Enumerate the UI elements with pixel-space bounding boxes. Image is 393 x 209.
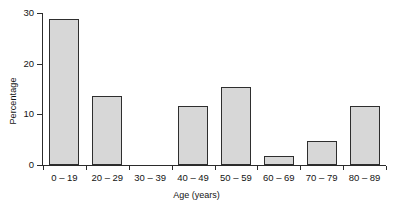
y-tick-mark [37, 13, 42, 14]
y-tick-label: 10 [14, 108, 34, 119]
bar-slot [172, 13, 215, 165]
bar-slot [343, 13, 386, 165]
x-tick-label: 0 – 19 [43, 172, 86, 183]
bar [307, 141, 337, 165]
bar [49, 19, 79, 165]
x-tick-mark [300, 166, 301, 170]
bar [264, 156, 294, 165]
bar [92, 96, 122, 165]
y-tick-label: 30 [14, 7, 34, 18]
x-tick-mark [343, 166, 344, 170]
bar [221, 87, 251, 165]
bar-slot [129, 13, 172, 165]
x-tick-label: 70 – 79 [300, 172, 343, 183]
y-tick-mark [37, 64, 42, 65]
x-tick-mark [43, 166, 44, 170]
x-tick-mark [386, 166, 387, 170]
bar-slot [257, 13, 300, 165]
bar-slot [43, 13, 86, 165]
plot-area [43, 13, 386, 165]
x-tick-label: 60 – 69 [257, 172, 300, 183]
y-axis-title: Percentage [8, 56, 18, 146]
x-tick-mark [172, 166, 173, 170]
x-tick-label: 20 – 29 [86, 172, 129, 183]
x-tick-label: 50 – 59 [215, 172, 258, 183]
x-tick-label: 80 – 89 [343, 172, 386, 183]
bar-slot [300, 13, 343, 165]
x-tick-mark [215, 166, 216, 170]
y-tick-label: 20 [14, 58, 34, 69]
x-tick-mark [257, 166, 258, 170]
y-tick-mark [37, 165, 42, 166]
x-tick-label: 30 – 39 [129, 172, 172, 183]
bar [178, 106, 208, 165]
bar-slot [86, 13, 129, 165]
x-tick-label: 40 – 49 [172, 172, 215, 183]
x-tick-mark [86, 166, 87, 170]
y-tick-mark [37, 114, 42, 115]
x-tick-mark [129, 166, 130, 170]
x-axis-title: Age (years) [0, 190, 393, 200]
bar-slot [215, 13, 258, 165]
bar-chart: Percentage 0102030 0 – 1920 – 2930 – 394… [0, 0, 393, 209]
bar [350, 106, 380, 165]
y-tick-label: 0 [14, 159, 34, 170]
